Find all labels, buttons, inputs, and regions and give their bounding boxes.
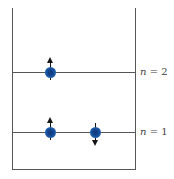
energy-level-n1-line bbox=[12, 132, 135, 133]
n2-label-value: = 2 bbox=[146, 66, 167, 77]
potential-well-diagram: n = 2 n = 1 bbox=[0, 0, 174, 179]
spin-down-arrow-icon bbox=[92, 140, 98, 146]
n1-label-value: = 1 bbox=[146, 126, 167, 137]
spin-up-arrow-icon bbox=[47, 57, 53, 63]
energy-level-n2-line bbox=[12, 72, 135, 73]
electron-n1-spin-up bbox=[45, 127, 56, 138]
well-right-wall bbox=[135, 8, 136, 169]
electron-n1-spin-down bbox=[90, 127, 101, 138]
energy-level-n1-label: n = 1 bbox=[140, 126, 168, 138]
well-left-wall bbox=[12, 8, 13, 169]
electron-n2-spin-up bbox=[45, 67, 56, 78]
well-floor bbox=[12, 169, 136, 170]
energy-level-n2-label: n = 2 bbox=[140, 66, 168, 78]
spin-up-arrow-icon bbox=[47, 117, 53, 123]
